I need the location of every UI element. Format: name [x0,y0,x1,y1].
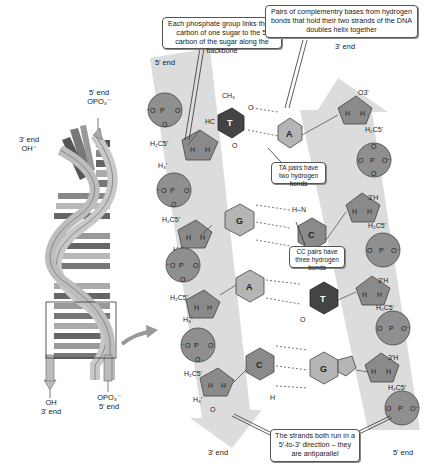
svg-text:A: A [246,282,253,292]
svg-text:P: P [370,157,375,164]
right-strand-3prime-end: 3' end [330,42,360,51]
svg-text:H₂C5': H₂C5' [150,140,168,147]
svg-text:P: P [389,325,394,332]
svg-text:P: P [194,342,199,349]
svg-text:P: P [379,247,384,254]
svg-text:O: O [300,316,306,323]
svg-text:O⁻: O⁻ [410,405,419,412]
svg-text:O: O [193,262,199,269]
base-pair-AT: A T O [220,270,356,323]
svg-text:H: H [360,110,365,117]
svg-text:O: O [232,142,238,149]
base-pair-CG: C G H [234,346,368,401]
callout-phosphate-linkage: Each phosphate group links the 3' carbon… [162,17,282,49]
svg-text:⁻O: ⁻O [157,187,167,194]
svg-text:P: P [160,107,165,114]
svg-text:⁻O: ⁻O [146,107,156,114]
svg-text:O: O [162,121,168,128]
svg-text:O3': O3' [358,89,369,96]
svg-text:H: H [367,208,372,215]
svg-text:P: P [179,262,184,269]
svg-text:H: H [194,304,199,311]
svg-text:O: O [171,201,177,208]
svg-text:O⁻: O⁻ [401,325,410,332]
svg-text:O: O [371,170,377,177]
svg-text:H₃': H₃' [193,396,202,403]
svg-text:H: H [386,368,391,375]
svg-text:H₂C5': H₂C5' [184,370,202,377]
helix-top-3prime-end: 3' end OH⁻ [14,135,44,153]
svg-text:H: H [377,291,382,298]
svg-text:H₂C5': H₂C5' [162,216,180,223]
svg-text:H₃': H₃' [158,162,167,169]
svg-text:T: T [227,118,233,128]
svg-text:O: O [386,405,392,412]
svg-text:A: A [286,129,293,139]
svg-text:H: H [190,146,195,153]
callout-antiparallel: The strands both run in a 5'-to-3' direc… [270,429,360,462]
svg-text:H₂C5': H₂C5' [365,126,383,133]
svg-text:C: C [256,360,263,370]
svg-text:C: C [308,230,315,240]
svg-text:3'H: 3'H [378,277,388,284]
svg-text:H₂C5': H₂C5' [376,304,394,311]
svg-text:H: H [205,146,210,153]
left-strand-5prime-end: 5' end [150,58,180,67]
svg-text:T: T [320,294,326,304]
svg-text:H₂C5': H₂C5' [388,384,406,391]
svg-text:H: H [207,304,212,311]
right-strand-5prime-end: 5' end [388,448,418,457]
callout-complementary-base-pairs: Pairs of complementry bases from hydroge… [265,5,418,38]
helix-bottom-3prime-end: OH 3' end [36,398,66,416]
svg-text:P: P [170,187,175,194]
svg-text:H₂C5': H₂C5' [170,294,188,301]
callout-ta-pairs: TA pairs have two hydrogen bonds [271,162,326,184]
svg-text:O: O [184,187,190,194]
left-strand-3prime-end: 3' end [203,448,233,457]
svg-text:O: O [367,247,373,254]
svg-text:H: H [371,368,376,375]
phosphate-group: P ⁻OO O [146,93,182,128]
svg-text:HC: HC [205,118,215,125]
svg-text:O: O [195,356,201,363]
svg-text:H: H [345,110,350,117]
svg-text:3'H: 3'H [368,194,378,201]
svg-text:CH₃: CH₃ [222,92,235,99]
svg-text:O: O [371,143,377,150]
svg-text:O: O [180,276,186,283]
svg-text:O: O [377,325,383,332]
svg-text:O⁻: O⁻ [391,247,400,254]
phosphate-group: P OO⁻ [376,311,410,345]
double-helix-illustration [44,118,116,398]
svg-text:3'H: 3'H [388,354,398,361]
callout-cc-pairs: CC pairs have three hydrogen bonds [289,246,345,268]
helix-top-5prime-end: 5' end OPO₃⁻ [84,88,114,106]
svg-text:H: H [270,394,275,401]
helix-bottom-5prime-end: OPO₃⁻ 5' end [94,393,124,411]
zoom-arrow [122,332,148,344]
svg-text:G: G [236,216,243,226]
svg-text:H: H [362,291,367,298]
svg-text:O⁻: O⁻ [382,157,391,164]
svg-text:H: H [221,382,226,389]
svg-text:H₂C5': H₂C5' [368,222,386,229]
phosphate-group: P OO⁻ OO [357,143,391,177]
svg-text:G: G [320,364,327,374]
phosphate-group: P OO⁻ [366,233,400,267]
svg-text:O: O [358,157,364,164]
phosphate-group: P OO⁻ [385,391,419,425]
svg-text:O: O [208,342,214,349]
svg-text:H: H [352,208,357,215]
svg-text:H: H [186,234,191,241]
helix-bottom-arrow [44,380,56,390]
svg-text:O: O [175,107,181,114]
svg-text:O: O [248,104,254,111]
svg-text:⁻O: ⁻O [166,262,176,269]
svg-text:H₃': H₃' [183,316,192,323]
svg-text:O: O [210,406,216,413]
svg-text:H–N: H–N [292,206,306,213]
svg-text:H: H [208,382,213,389]
svg-text:⁻O: ⁻O [181,342,191,349]
svg-text:P: P [398,405,403,412]
